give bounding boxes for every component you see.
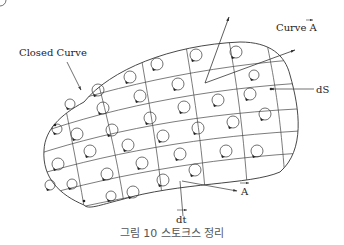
- loop-arrowheads: [46, 56, 264, 202]
- dt-leader: [180, 181, 183, 216]
- boundary-dots: [54, 88, 273, 203]
- curve-a-label: Curve A: [276, 22, 318, 33]
- circulation-loops: [0, 0, 6, 6]
- figure-caption: 그림 10 스토크스 정리: [0, 224, 344, 240]
- closed-curve-boundary: [44, 42, 298, 207]
- surface-grid: [20, 35, 320, 230]
- stokes-theorem-diagram: Closed Curve Curve A dS A dt: [0, 0, 344, 245]
- ds-label: dS: [316, 84, 329, 95]
- a-vector-label: A: [240, 186, 249, 197]
- closed-curve-leader: [67, 62, 81, 90]
- closed-curve-label: Closed Curve: [19, 47, 87, 58]
